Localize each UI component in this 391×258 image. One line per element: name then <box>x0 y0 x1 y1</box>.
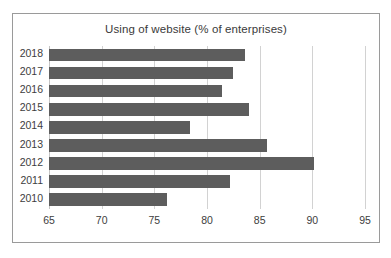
bar-2018 <box>49 49 245 62</box>
chart-frame: Using of website (% of enterprises) 2018… <box>12 13 380 243</box>
y-axis-label-2011: 2011 <box>20 174 43 186</box>
x-tick-label-85: 85 <box>254 214 266 226</box>
plot-area: 201820172016201520142013201220112010 657… <box>49 46 365 209</box>
y-axis-label-2018: 2018 <box>20 47 43 59</box>
bar-row: 2012 <box>49 155 365 173</box>
bar-2016 <box>49 85 222 98</box>
bar-2014 <box>49 121 190 134</box>
bar-2011 <box>49 175 230 188</box>
y-axis-label-2015: 2015 <box>20 101 43 113</box>
bar-row: 2018 <box>49 46 365 64</box>
y-axis-label-2013: 2013 <box>20 138 43 150</box>
x-tick-label-75: 75 <box>148 214 160 226</box>
bar-row: 2014 <box>49 118 365 136</box>
bar-series: 201820172016201520142013201220112010 <box>49 46 365 209</box>
chart-title: Using of website (% of enterprises) <box>13 23 379 35</box>
x-tick-label-95: 95 <box>359 214 371 226</box>
bar-2012 <box>49 157 314 170</box>
y-axis-label-2012: 2012 <box>20 156 43 168</box>
y-axis-label-2016: 2016 <box>20 83 43 95</box>
y-axis-label-2014: 2014 <box>20 119 43 131</box>
x-tick-label-80: 80 <box>201 214 213 226</box>
bar-2015 <box>49 103 249 116</box>
bar-2010 <box>49 193 167 206</box>
gridline-95 <box>365 46 366 209</box>
bar-2017 <box>49 67 233 80</box>
bar-row: 2011 <box>49 173 365 191</box>
bar-row: 2010 <box>49 191 365 209</box>
bar-row: 2015 <box>49 100 365 118</box>
y-axis-label-2017: 2017 <box>20 65 43 77</box>
bar-row: 2017 <box>49 64 365 82</box>
bar-2013 <box>49 139 267 152</box>
x-tick-label-90: 90 <box>306 214 318 226</box>
bar-row: 2016 <box>49 82 365 100</box>
x-tick-label-65: 65 <box>43 214 55 226</box>
y-axis-label-2010: 2010 <box>20 192 43 204</box>
x-tick-label-70: 70 <box>96 214 108 226</box>
bar-row: 2013 <box>49 137 365 155</box>
